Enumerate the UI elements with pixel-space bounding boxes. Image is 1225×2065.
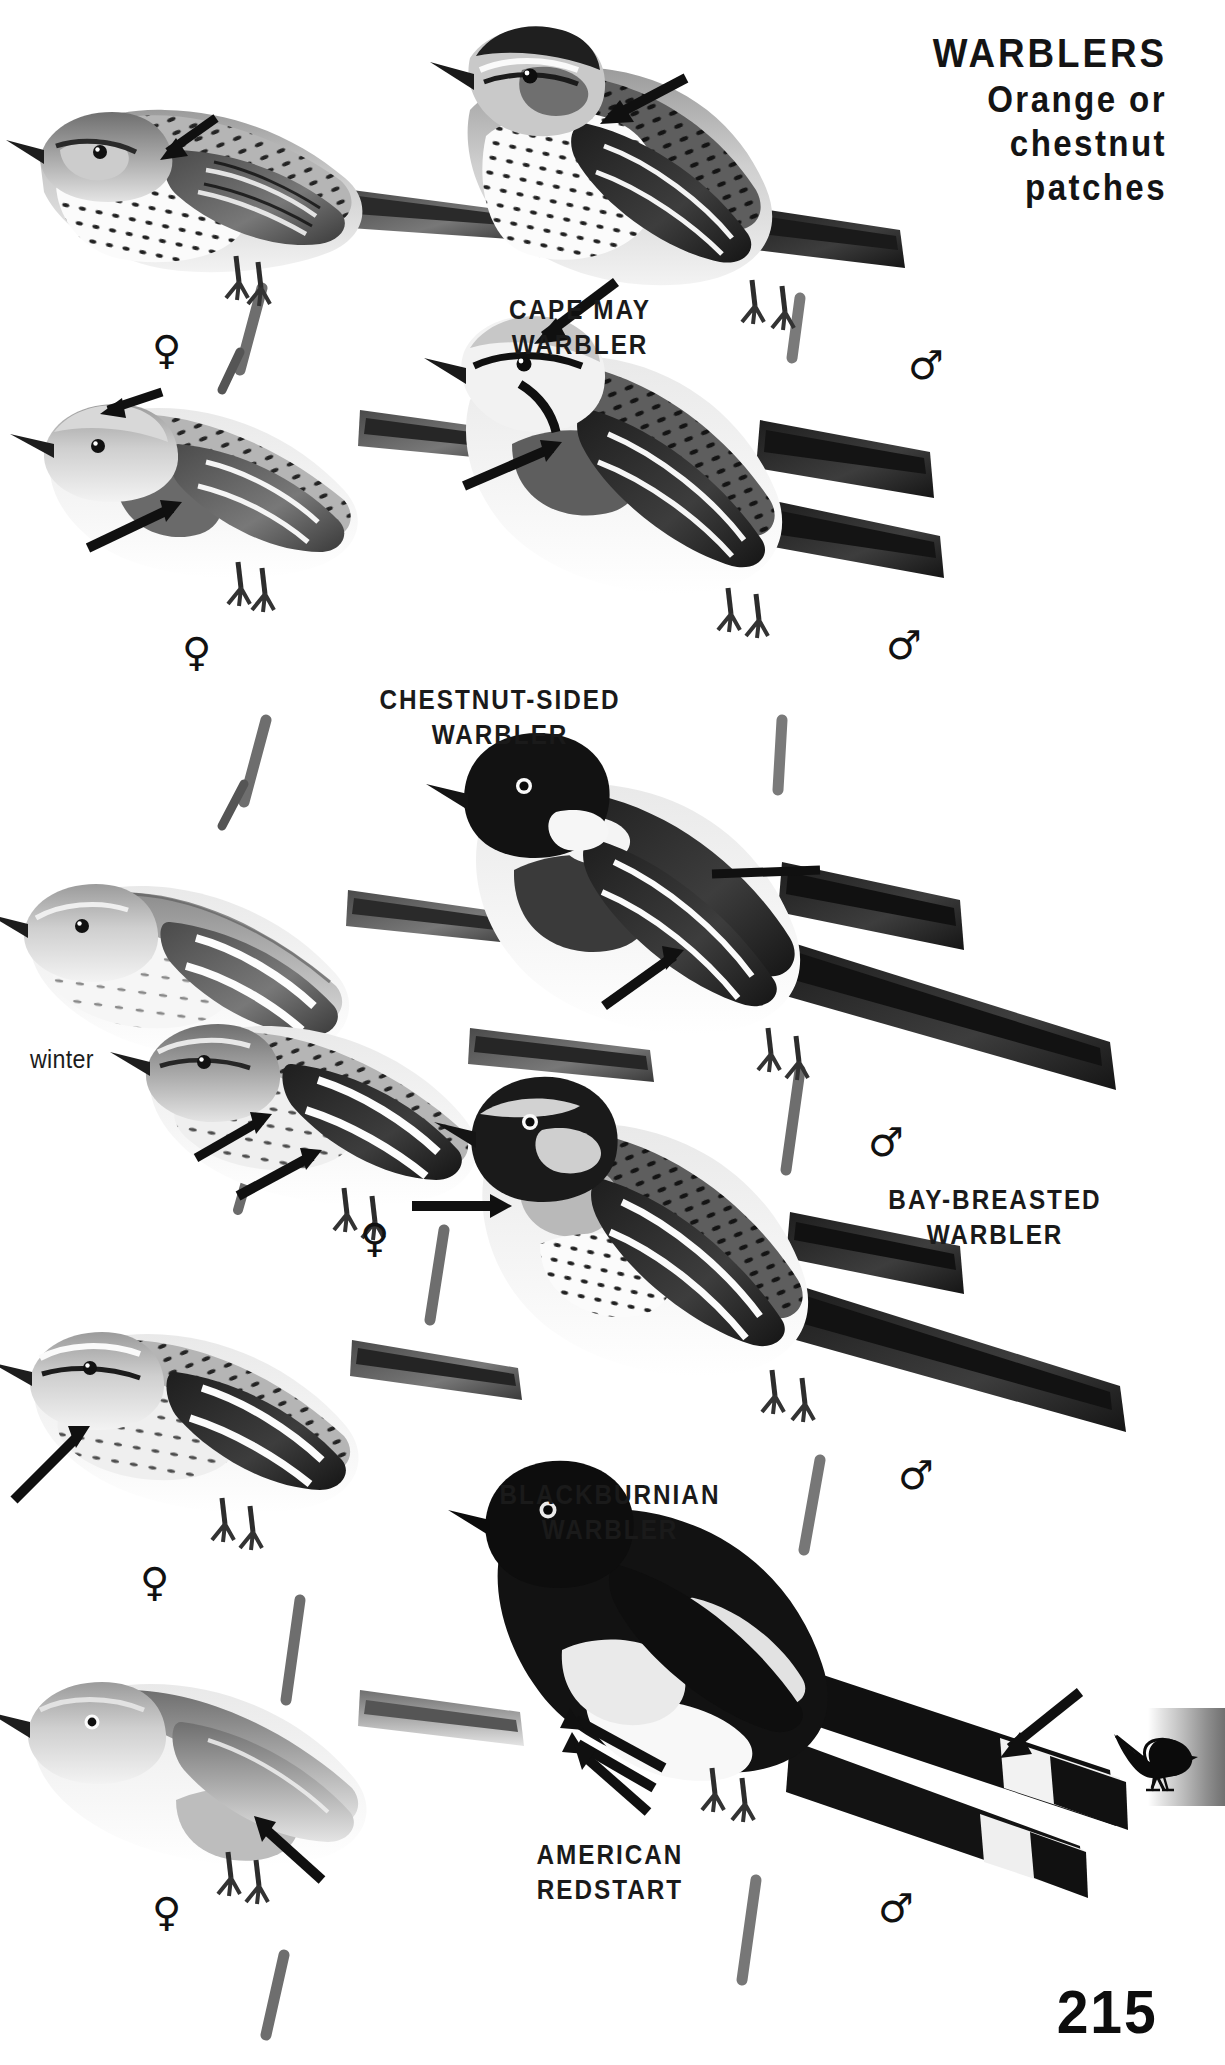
species-label-chestnut-sided: CHESTNUT-SIDED WARBLER bbox=[347, 683, 653, 753]
sex-symbol-male-blackburnian: ♂ bbox=[898, 1455, 934, 1495]
species-label-chestnut-sided-line2: WARBLER bbox=[347, 718, 653, 753]
species-label-american-redstart-line1: AMERICAN bbox=[475, 1838, 745, 1873]
species-label-bay-breasted: BAY-BREASTED WARBLER bbox=[860, 1183, 1130, 1253]
species-label-american-redstart: AMERICAN REDSTART bbox=[475, 1838, 745, 1908]
species-label-cape-may: CAPE MAY WARBLER bbox=[450, 293, 711, 363]
species-label-blackburnian-line1: BLACKBURNIAN bbox=[475, 1478, 745, 1513]
bird-blackburnian-male bbox=[434, 1077, 1126, 1432]
species-label-american-redstart-line2: REDSTART bbox=[475, 1873, 745, 1908]
species-label-blackburnian: BLACKBURNIAN WARBLER bbox=[475, 1478, 745, 1548]
bird-chestnut-sided-female bbox=[10, 404, 526, 612]
plumage-note-winter: winter bbox=[30, 1045, 94, 1074]
sex-symbol-male-bay-breasted: ♂ bbox=[868, 1122, 904, 1162]
bird-cape-may-female bbox=[6, 110, 525, 306]
sex-symbol-male-american-redstart: ♂ bbox=[878, 1888, 914, 1928]
species-label-blackburnian-line2: WARBLER bbox=[475, 1513, 745, 1548]
species-label-bay-breasted-line2: WARBLER bbox=[860, 1218, 1130, 1253]
pointer-arrow-bay-breasted-male-nape bbox=[712, 870, 820, 874]
species-label-cape-may-line2: WARBLER bbox=[450, 328, 711, 363]
sex-symbol-female-blackburnian: ♀ bbox=[140, 1562, 169, 1602]
sex-symbol-female-chestnut-sided: ♀ bbox=[182, 632, 211, 672]
species-label-chestnut-sided-line1: CHESTNUT-SIDED bbox=[347, 683, 653, 718]
sex-symbol-male-chestnut-sided: ♂ bbox=[886, 625, 922, 665]
bird-american-redstart-female bbox=[0, 1682, 524, 1904]
warbler-silhouette-icon bbox=[1112, 1716, 1198, 1796]
sex-symbol-female-american-redstart: ♀ bbox=[152, 1892, 181, 1932]
sex-symbol-female-cape-may: ♀ bbox=[152, 330, 181, 370]
sex-symbol-female-bay-breasted: ♀ bbox=[360, 1218, 389, 1258]
bird-chestnut-sided-male bbox=[424, 316, 944, 638]
field-guide-page: WARBLERS Orange or chestnut patches bbox=[0, 0, 1225, 2065]
page-number: 215 bbox=[1056, 1976, 1157, 2047]
bird-cape-may-male bbox=[430, 26, 905, 330]
sex-symbol-male-cape-may: ♂ bbox=[908, 345, 944, 385]
species-label-cape-may-line1: CAPE MAY bbox=[450, 293, 711, 328]
species-label-bay-breasted-line1: BAY-BREASTED bbox=[860, 1183, 1130, 1218]
